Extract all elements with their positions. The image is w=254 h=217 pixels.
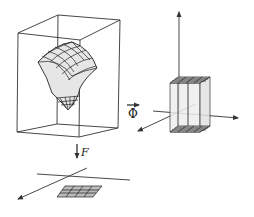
f-label: F <box>81 147 89 158</box>
flat-grid <box>57 186 102 197</box>
curved-surface-patch <box>38 42 97 110</box>
rectangular-prism <box>170 77 210 132</box>
diagram-canvas <box>0 0 254 217</box>
phi-label: Φ <box>128 108 138 120</box>
